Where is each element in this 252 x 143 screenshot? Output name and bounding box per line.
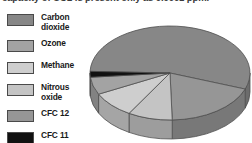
legend-swatch-ozone <box>7 40 34 52</box>
greenhouse-gas-pie-figure: capacity of CO2 is present only as 0.000… <box>0 0 252 143</box>
legend-label-carbon-dioxide: Carbon dioxide <box>41 13 69 32</box>
legend-item-methane[interactable]: Methane <box>7 61 74 74</box>
legend-label-ozone: Ozone <box>41 39 66 49</box>
pie-chart <box>86 20 252 143</box>
legend-swatch-nitrous-oxide <box>7 84 34 96</box>
legend-item-nitrous-oxide[interactable]: Nitrous oxide <box>7 83 69 102</box>
pie-slice-tops <box>90 26 250 120</box>
legend-swatch-cfc-12 <box>7 110 34 122</box>
legend-label-nitrous-oxide: Nitrous oxide <box>41 83 69 102</box>
legend-label-methane: Methane <box>41 61 74 71</box>
legend-item-cfc-11[interactable]: CFC 11 <box>7 131 69 143</box>
legend-item-cfc-12[interactable]: CFC 12 <box>7 109 69 122</box>
legend-item-ozone[interactable]: Ozone <box>7 39 66 52</box>
legend-item-carbon-dioxide[interactable]: Carbon dioxide <box>7 13 69 32</box>
legend-swatch-cfc-11 <box>7 132 34 143</box>
legend-swatch-carbon-dioxide <box>7 14 34 26</box>
legend-swatch-methane <box>7 62 34 74</box>
legend-label-cfc-11: CFC 11 <box>41 131 69 141</box>
caption-clip: capacity of CO2 is present only as 0.000… <box>0 0 252 8</box>
caption-text: capacity of CO2 is present only as 0.000… <box>2 0 252 3</box>
pie-chart-svg <box>86 20 252 143</box>
legend-label-cfc-12: CFC 12 <box>41 109 69 119</box>
